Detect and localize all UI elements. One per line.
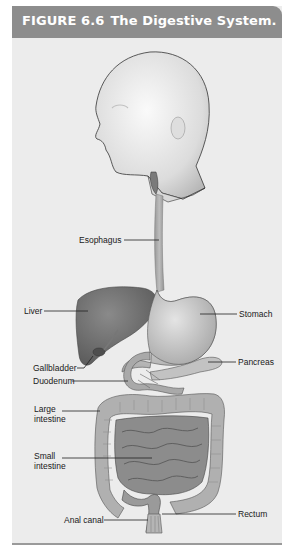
label-small-intestine-line1: Small <box>34 451 55 461</box>
label-gallbladder: Gallbladder <box>33 363 76 373</box>
gallbladder-illustration <box>93 348 105 356</box>
label-esophagus: Esophagus <box>79 235 122 245</box>
label-small-intestine-line2: intestine <box>34 461 66 471</box>
esophagus-illustration <box>155 194 164 292</box>
label-duodenum: Duodenum <box>33 376 75 386</box>
label-large-intestine-line2: intestine <box>34 414 66 424</box>
label-large-intestine-line1: Large <box>34 404 56 414</box>
label-liver: Liver <box>24 306 42 316</box>
label-rectum: Rectum <box>238 509 267 519</box>
small-intestine-illustration <box>115 416 209 495</box>
label-stomach: Stomach <box>239 309 273 319</box>
label-pancreas: Pancreas <box>238 357 274 367</box>
anal-canal-illustration <box>146 514 162 533</box>
label-anal-canal: Anal canal <box>64 515 104 525</box>
head-illustration <box>96 52 210 202</box>
